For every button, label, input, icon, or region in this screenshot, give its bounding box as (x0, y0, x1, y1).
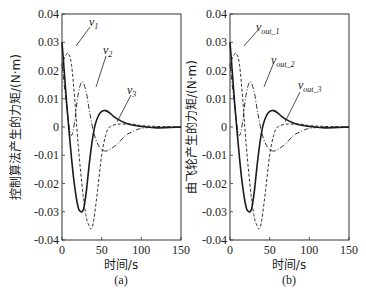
y-tick-label: 0.01 (206, 92, 227, 106)
series-group-a (62, 42, 181, 229)
svg-text:vout_1: vout_1 (256, 20, 280, 36)
svg-text:v3: v3 (127, 83, 136, 99)
y-tick-label: 0.04 (206, 7, 227, 21)
panel-a: -0.04-0.03-0.02-0.0100.010.020.030.04 05… (8, 7, 190, 287)
y-tick-label: 0.02 (206, 64, 227, 78)
y-tick-label: -0.01 (34, 148, 59, 162)
y-tick-label: 0.03 (206, 35, 227, 49)
y-ticks-b: -0.04-0.03-0.02-0.0100.010.020.030.04 (202, 7, 233, 247)
svg-text:vout_2: vout_2 (271, 53, 295, 69)
x-tick-label: 50 (264, 243, 276, 257)
series-line-v1 (62, 53, 181, 229)
y-tick-label: -0.03 (34, 205, 59, 219)
x-tick-label: 150 (172, 243, 190, 257)
x-tick-label: 0 (227, 243, 233, 257)
x-tick-label: 100 (132, 243, 150, 257)
series-line-vout-1 (230, 53, 349, 229)
figure: -0.04-0.03-0.02-0.0100.010.020.030.04 05… (0, 0, 366, 296)
y-tick-label: 0.01 (38, 92, 59, 106)
svg-text:v2: v2 (103, 43, 112, 59)
series-label-vout-3: vout_3 (285, 78, 322, 122)
y-tick-label: -0.02 (202, 177, 227, 191)
x-tick-label: 50 (96, 243, 108, 257)
x-tick-label: 100 (300, 243, 318, 257)
series-label-v2: v2 (96, 43, 112, 87)
series-line-v2 (62, 65, 181, 151)
y-tick-label: 0.03 (38, 35, 59, 49)
y-tick-label: -0.01 (202, 148, 227, 162)
panel-caption-a: (a) (114, 273, 127, 287)
x-tick-label: 150 (340, 243, 358, 257)
y-tick-label: -0.03 (202, 205, 227, 219)
y-tick-label: 0 (221, 120, 227, 134)
svg-text:v1: v1 (89, 15, 98, 31)
panel-caption-b: (b) (282, 273, 296, 287)
y-ticks-a: -0.04-0.03-0.02-0.0100.010.020.030.04 (34, 7, 65, 247)
y-tick-label: -0.02 (34, 177, 59, 191)
y-tick-label: 0.04 (38, 7, 59, 21)
y-tick-label: -0.04 (34, 233, 59, 247)
y-tick-label: 0 (53, 120, 59, 134)
x-axis-title-b: 时间/s (272, 258, 306, 272)
panel-b: -0.04-0.03-0.02-0.0100.010.020.030.04 05… (184, 7, 358, 287)
series-label-v3: v3 (117, 83, 136, 122)
y-tick-label: 0.02 (38, 64, 59, 78)
x-tick-label: 0 (59, 243, 65, 257)
y-tick-label: -0.04 (202, 233, 227, 247)
series-label-v1: v1 (76, 15, 98, 46)
y-axis-title-a: 控制算法产生的力矩/(N·m) (8, 54, 23, 200)
series-line-v3 (62, 42, 181, 212)
series-group-b (230, 42, 349, 229)
series-label-vout-2: vout_2 (264, 53, 295, 87)
series-line-vout-2 (230, 65, 349, 151)
series-label-vout-1: vout_1 (244, 20, 280, 46)
x-axis-title-a: 时间/s (104, 258, 138, 272)
svg-text:vout_3: vout_3 (298, 78, 322, 94)
y-axis-title-b: 由飞轮产生的力矩/(N·m) (184, 60, 199, 194)
